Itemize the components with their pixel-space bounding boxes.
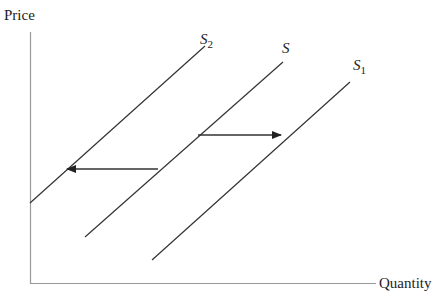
x-axis-label: Quantity <box>379 275 432 291</box>
y-axis-label: Price <box>4 7 35 23</box>
axes <box>30 32 376 284</box>
label-s2: S2 <box>200 31 213 50</box>
supply-curve-s <box>85 62 283 237</box>
label-s1: S1 <box>353 57 366 76</box>
label-s: S <box>282 40 290 56</box>
supply-shift-diagram: Price Quantity S2 S S1 <box>0 0 436 298</box>
supply-curve-s1 <box>152 82 350 260</box>
supply-curve-s2 <box>30 46 205 203</box>
